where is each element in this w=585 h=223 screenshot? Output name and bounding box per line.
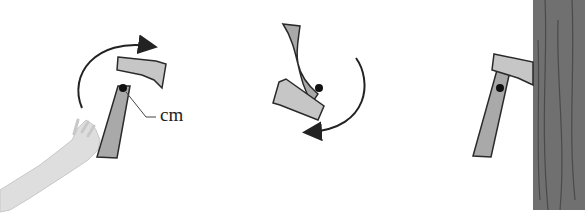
axe-midair <box>273 24 324 120</box>
diagram-canvas <box>0 0 585 223</box>
axe-rotation-diagram: cm <box>0 0 585 223</box>
axe-tossed <box>97 57 166 158</box>
center-of-mass-dot <box>119 84 127 92</box>
axe-embedded <box>473 54 533 157</box>
center-of-mass-label: cm <box>160 104 183 126</box>
center-of-mass-dot <box>315 84 323 92</box>
center-of-mass-dot <box>496 84 504 92</box>
tree-trunk <box>533 0 585 210</box>
arm-illustration <box>0 120 100 212</box>
